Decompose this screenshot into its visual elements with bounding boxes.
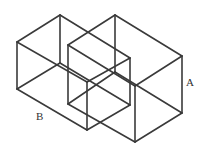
overlapping-cubes-diagram: A B xyxy=(0,0,205,155)
bottom-edge xyxy=(135,113,182,142)
top-edge xyxy=(135,56,182,86)
cube-a-label: A xyxy=(186,76,194,88)
bottom-edge xyxy=(68,72,115,104)
top-edge xyxy=(115,15,182,56)
cube-b-label: B xyxy=(36,110,43,122)
top-edge xyxy=(68,45,135,86)
top-edge xyxy=(60,15,130,58)
top-edge xyxy=(68,15,115,45)
top-edge xyxy=(17,15,60,42)
bottom-edge xyxy=(68,104,135,142)
top-edge xyxy=(17,42,87,82)
bottom-edge xyxy=(60,63,130,105)
bottom-edge xyxy=(17,63,60,89)
